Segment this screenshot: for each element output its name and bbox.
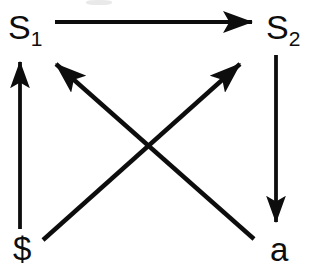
node-label-dollar: $ (13, 232, 31, 265)
diagram-edges-svg (0, 0, 309, 271)
node-s2-base: S (266, 8, 289, 46)
node-s2-subscript: 2 (289, 27, 301, 50)
node-s1-subscript: 1 (31, 27, 43, 50)
edge-a-to-s1 (56, 64, 254, 239)
node-label-s1: S1 (8, 10, 42, 44)
diagram-canvas: S1 S2 $ a (0, 0, 309, 271)
node-s1-base: S (8, 8, 31, 46)
node-a-base: a (270, 231, 288, 268)
edge-dollar-to-s2 (43, 64, 240, 240)
node-label-a: a (270, 233, 288, 266)
node-dollar-base: $ (13, 230, 31, 267)
node-label-s2: S2 (266, 10, 300, 44)
